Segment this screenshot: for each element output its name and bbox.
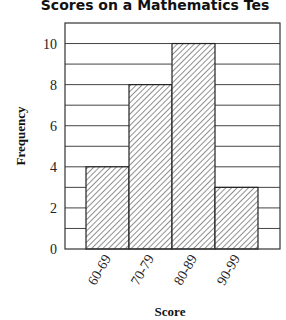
bar-80-89 [172, 44, 215, 249]
y-tick-label: 10 [43, 37, 57, 52]
x-tick-label: 60-69 [85, 252, 114, 288]
x-tick-label: 90-99 [214, 252, 243, 288]
x-axis-label: Score [155, 304, 186, 319]
y-tick-labels: 0246810 [43, 37, 57, 257]
x-tick-label: 70-79 [128, 252, 157, 288]
bar-60-69 [86, 167, 129, 249]
y-axis-label: Frequency [13, 106, 28, 165]
histogram-chart: 0246810 60-6970-7980-8990-99 Frequency S… [0, 0, 286, 320]
bar-90-99 [215, 187, 258, 249]
y-tick-label: 0 [50, 242, 57, 257]
x-tick-label: 80-89 [171, 252, 200, 288]
y-tick-label: 2 [50, 201, 57, 216]
bar-70-79 [129, 85, 172, 249]
y-tick-label: 6 [50, 119, 57, 134]
y-tick-label: 4 [50, 160, 57, 175]
y-tick-label: 8 [50, 78, 57, 93]
x-tick-labels: 60-6970-7980-8990-99 [85, 252, 243, 288]
